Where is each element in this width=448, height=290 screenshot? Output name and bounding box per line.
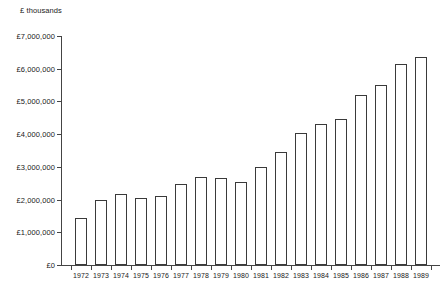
bar[interactable] [175,184,187,265]
x-axis-tick [211,265,212,270]
x-axis-tick [131,265,132,270]
y-axis-line [61,36,62,265]
bar[interactable] [115,194,127,265]
x-axis-tick [311,265,312,270]
x-axis-tick [271,265,272,270]
bar[interactable] [75,218,87,265]
bar[interactable] [375,85,387,265]
bar[interactable] [135,198,147,265]
y-axis-tick-label: £4,000,000 [16,130,55,139]
x-axis-tick [251,265,252,270]
y-axis-tick [57,167,62,168]
x-axis-tick [431,265,432,270]
bar[interactable] [255,167,267,265]
y-axis-tick [57,36,62,37]
bar[interactable] [235,182,247,265]
x-axis-tick [111,265,112,270]
bar[interactable] [195,177,207,265]
bar[interactable] [315,124,327,265]
x-axis-tick [391,265,392,270]
x-axis-tick [231,265,232,270]
y-axis-tick-label: £3,000,000 [16,163,55,172]
x-axis-tick [291,265,292,270]
bar[interactable] [295,133,307,265]
y-axis-tick-label: £2,000,000 [16,196,55,205]
y-axis-tick-label: £0 [46,261,55,270]
bar[interactable] [275,152,287,265]
x-axis-tick [411,265,412,270]
y-axis-tick [57,101,62,102]
x-axis-tick [331,265,332,270]
bar[interactable] [355,95,367,265]
y-axis-tick-label: £1,000,000 [16,228,55,237]
y-axis-tick-label: £7,000,000 [16,32,55,41]
x-axis-tick-labels: 1972197319741975197619771978197919801981… [61,272,440,286]
y-axis-tick [57,69,62,70]
x-axis-tick [171,265,172,270]
plot-area [61,36,440,265]
y-axis-tick [57,200,62,201]
bar[interactable] [395,64,407,265]
x-axis-tick [351,265,352,270]
x-axis-tick [371,265,372,270]
bar[interactable] [335,119,347,265]
bar[interactable] [415,57,427,265]
bar[interactable] [95,200,107,265]
y-axis-tick [57,232,62,233]
y-axis-tick-label: £5,000,000 [16,97,55,106]
y-axis-tick [57,265,62,266]
x-axis-tick-label: 1989 [409,272,433,279]
x-axis-tick [71,265,72,270]
x-axis-tick [151,265,152,270]
bar[interactable] [155,196,167,265]
x-axis-tick [91,265,92,270]
y-axis-tick [57,134,62,135]
y-axis-tick-label: £6,000,000 [16,65,55,74]
y-axis-tick-labels: £0£1,000,000£2,000,000£3,000,000£4,000,0… [0,36,55,265]
chart-page: £ thousands £0£1,000,000£2,000,000£3,000… [0,0,448,290]
y-axis-unit-caption: £ thousands [20,6,62,15]
bar[interactable] [215,178,227,265]
x-axis-tick [191,265,192,270]
